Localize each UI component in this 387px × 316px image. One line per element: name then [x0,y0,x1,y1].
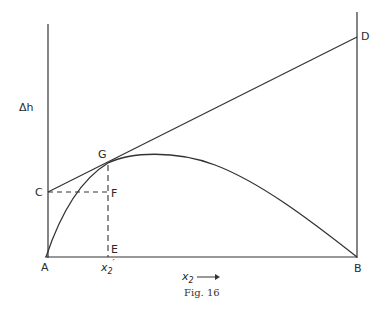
point-label-g: G [98,148,107,161]
x-axis-label: x2 [181,270,194,285]
x2-prime-label: x2′ [100,258,115,276]
point-label-c: C [35,186,43,199]
y-axis-label: Δh [19,101,34,114]
point-label-d: D [361,30,369,43]
tangent-line-cd [48,37,357,192]
figure-caption: Fig. 16 [184,287,220,298]
x-axis-arrow-icon [215,274,220,280]
point-label-e: E [111,243,118,256]
point-label-b: B [354,262,362,275]
figure-16-diagram: Δh G C F E A B D x2′ x2 Fig. 16 [0,0,387,316]
point-label-a: A [41,261,49,274]
point-label-f: F [111,187,117,200]
